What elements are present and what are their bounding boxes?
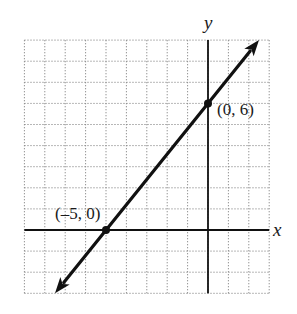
y-axis-label: y — [202, 12, 213, 33]
point-label-y-intercept: (0, 6) — [217, 100, 254, 119]
graph-line — [64, 51, 250, 282]
point-x-intercept — [102, 226, 110, 234]
point-label-x-intercept: (–5, 0) — [55, 204, 100, 223]
coordinate-plot: y x (–5, 0) (0, 6) — [0, 0, 297, 314]
point-y-intercept — [204, 99, 212, 107]
x-axis-label: x — [272, 219, 282, 240]
grid — [24, 40, 269, 293]
